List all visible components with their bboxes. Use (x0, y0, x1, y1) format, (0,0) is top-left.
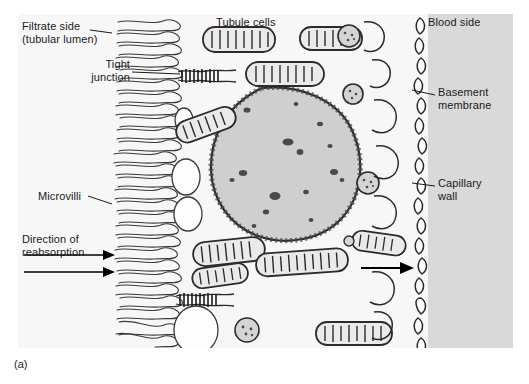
mitochondrion (255, 248, 348, 277)
arrow-blood-exit (361, 262, 414, 274)
tight-junction-upper (178, 69, 236, 83)
mitochondrion (192, 236, 266, 267)
label-filtrate-side-line1: Filtrate side (22, 20, 80, 32)
label-microvilli: Microvilli (38, 190, 81, 203)
label-tight-junction-line1: Tight (105, 58, 130, 70)
label-tubule-cells: Tubule cells (216, 16, 276, 29)
label-basement-line1: Basement (438, 86, 488, 98)
label-tight-junction: Tightjunction (62, 58, 130, 84)
mitochondrion (203, 27, 275, 52)
figure-caption: (a) (14, 358, 27, 370)
basement-membrane (414, 18, 426, 354)
mitochondrion (246, 62, 324, 86)
label-basement-line2: membrane (438, 99, 491, 111)
label-capillary-line1: Capillary (438, 177, 482, 189)
leader-microvilli (88, 196, 112, 204)
label-direction-line1: Direction of (22, 233, 79, 245)
label-filtrate-side: Filtrate side(tubular lumen) (22, 20, 97, 46)
label-blood-side: Blood side (428, 16, 480, 29)
arrow-left-lower (24, 267, 115, 277)
label-filtrate-side-line2: (tubular lumen) (22, 33, 97, 45)
label-basement-membrane: Basementmembrane (438, 86, 491, 112)
label-capillary-wall: Capillarywall (438, 177, 482, 203)
label-tight-junction-line2: junction (91, 71, 130, 83)
mitochondrion (351, 229, 407, 256)
label-capillary-line2: wall (438, 190, 457, 202)
leader-tight-junction (132, 72, 180, 74)
label-direction-line2: reabsorption (22, 246, 84, 258)
mitochondrion (316, 322, 392, 345)
tight-junction-lower (176, 293, 234, 307)
figure-root: Filtrate side(tubular lumen) Tightjuncti… (0, 0, 529, 384)
mitochondrion (191, 262, 249, 290)
label-direction-of-reabsorption: Direction ofreabsorption (22, 233, 84, 259)
